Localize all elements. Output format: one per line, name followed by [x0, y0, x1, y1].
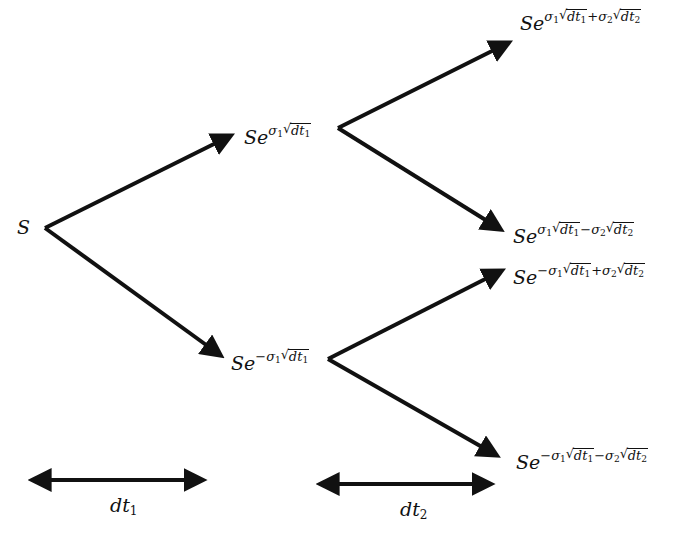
sqrt-icon: √dt1	[552, 222, 580, 238]
dt-sub: 1	[304, 129, 310, 139]
node-downup-exponent: −σ1√dt1+σ2√dt2	[537, 263, 645, 278]
sqrt-icon: √dt2	[617, 263, 645, 279]
edge-root-up	[45, 136, 230, 228]
node-up-base: Se	[244, 126, 268, 148]
dt-sub: 1	[302, 355, 308, 365]
sign: −	[537, 263, 548, 278]
sigma: σ	[266, 349, 275, 364]
dt: dt	[567, 9, 581, 24]
node-downdown-base: Se	[516, 451, 540, 473]
node-down-down: Se−σ1√dt1−σ2√dt2	[516, 448, 648, 472]
edge-down-downup	[328, 271, 501, 359]
sqrt-icon: √dt1	[566, 448, 594, 464]
operator: −	[594, 448, 605, 463]
sigma: σ	[598, 9, 607, 24]
node-down-up: Se−σ1√dt1+σ2√dt2	[513, 263, 645, 287]
dt: dt	[110, 494, 130, 516]
dt-sub: 2	[627, 228, 633, 238]
dt-sub: 2	[641, 454, 647, 464]
node-root-label: S	[17, 216, 30, 238]
node-downup-base: Se	[513, 266, 537, 288]
dt-sub: 1	[130, 504, 138, 518]
dt: dt	[574, 448, 588, 463]
dt: dt	[289, 349, 303, 364]
dt-sub: 1	[584, 269, 590, 279]
dt: dt	[571, 263, 585, 278]
sqrt-icon: √dt1	[281, 349, 309, 365]
dt-sub: 2	[638, 269, 644, 279]
node-up-down: Seσ1√dt1−σ2√dt2	[513, 222, 634, 246]
dt-sub: 1	[573, 228, 579, 238]
sign: −	[540, 448, 551, 463]
dt-sub: 2	[634, 15, 640, 25]
sigma: σ	[605, 448, 614, 463]
dt: dt	[614, 222, 628, 237]
sigma: σ	[268, 123, 277, 138]
node-updown-base: Se	[513, 225, 537, 247]
node-up: Seσ1√dt1	[244, 123, 311, 147]
interval-label-dt2: dt2	[400, 498, 427, 522]
dt: dt	[621, 9, 635, 24]
edge-up-upup	[338, 43, 508, 128]
sqrt-icon: √dt1	[563, 263, 591, 279]
sigma: σ	[537, 222, 546, 237]
edge-root-down	[45, 228, 220, 355]
interval-label-dt1: dt1	[110, 494, 137, 518]
operator: +	[591, 263, 602, 278]
sigma: σ	[544, 9, 553, 24]
node-downdown-exponent: −σ1√dt1−σ2√dt2	[540, 448, 648, 463]
sigma: σ	[602, 263, 611, 278]
edge-up-updown	[338, 128, 500, 229]
operator: +	[587, 9, 598, 24]
node-updown-exponent: σ1√dt1−σ2√dt2	[537, 222, 634, 237]
dt-sub: 2	[420, 508, 428, 522]
node-down: Se−σ1√dt1	[231, 349, 309, 373]
edge-down-downdown	[328, 359, 496, 455]
dt: dt	[560, 222, 574, 237]
dt-sub: 1	[587, 454, 593, 464]
node-up-exponent: σ1√dt1	[268, 123, 311, 138]
sqrt-icon: √dt1	[559, 9, 587, 25]
dt-sub: 1	[580, 15, 586, 25]
sqrt-icon: √dt2	[613, 9, 641, 25]
node-root: S	[17, 218, 30, 237]
sqrt-icon: √dt2	[620, 448, 648, 464]
node-upup-exponent: σ1√dt1+σ2√dt2	[544, 9, 641, 24]
sigma: σ	[551, 448, 560, 463]
binomial-tree-diagram: S Seσ1√dt1 Se−σ1√dt1 Seσ1√dt1+σ2√dt2 Seσ…	[0, 0, 688, 537]
dt: dt	[625, 263, 639, 278]
node-down-exponent: −σ1√dt1	[255, 349, 309, 364]
sigma: σ	[591, 222, 600, 237]
node-upup-base: Se	[520, 12, 544, 34]
operator: −	[580, 222, 591, 237]
sign: −	[255, 349, 266, 364]
sqrt-icon: √dt1	[283, 123, 311, 139]
dt: dt	[628, 448, 642, 463]
node-down-base: Se	[231, 352, 255, 374]
node-up-up: Seσ1√dt1+σ2√dt2	[520, 9, 641, 33]
sqrt-icon: √dt2	[606, 222, 634, 238]
sigma: σ	[548, 263, 557, 278]
dt: dt	[291, 123, 305, 138]
dt: dt	[400, 498, 420, 520]
